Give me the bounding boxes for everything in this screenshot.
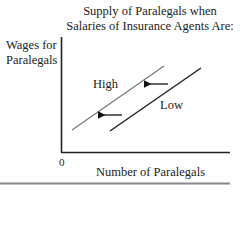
series-label-high: High: [93, 77, 118, 92]
origin-label: 0: [59, 156, 65, 168]
x-axis-label: Number of Paralegals: [96, 165, 205, 180]
series-label-low: Low: [160, 98, 183, 113]
supply-curve-low: [110, 68, 201, 131]
supply-curve-high: [72, 66, 164, 130]
